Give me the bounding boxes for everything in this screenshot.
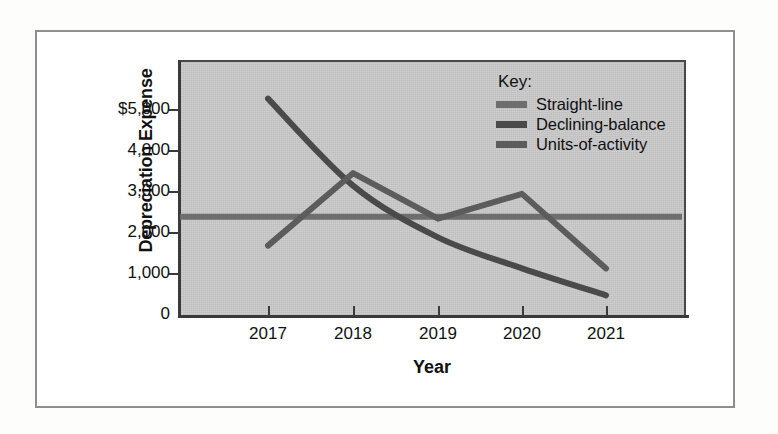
page-background: Depreciation Expense Year $5,000 4,000 3…	[0, 0, 778, 434]
x-tick-label-2020: 2020	[477, 324, 567, 344]
y-tick-label-1000: 1,000	[60, 263, 170, 283]
x-tick-label-2021: 2021	[561, 324, 651, 344]
legend: Key: Straight-line Declining-balance Uni…	[496, 72, 665, 155]
y-tick-label-0: 0	[60, 304, 170, 324]
x-tick-label-2018: 2018	[308, 324, 398, 344]
y-tick-label-3000: 3,000	[60, 181, 170, 201]
legend-label-units-of-activity: Units-of-activity	[536, 135, 647, 154]
legend-title: Key:	[496, 72, 665, 92]
y-tick-label-4000: 4,000	[60, 140, 170, 160]
legend-swatch-units-of-activity	[496, 141, 527, 148]
plot-wrapper: $5,000 4,000 3,000 2,000 1,000 0 2017 20…	[178, 60, 686, 316]
legend-label-declining-balance: Declining-balance	[536, 115, 665, 134]
y-tick-label-5000: $5,000	[60, 99, 170, 119]
legend-item-units-of-activity: Units-of-activity	[496, 135, 665, 154]
legend-swatch-declining-balance	[496, 121, 527, 128]
series-line-units-of-activity	[268, 173, 606, 268]
x-tick-label-2017: 2017	[223, 324, 313, 344]
x-tick-label-2019: 2019	[393, 324, 483, 344]
y-tick-label-2000: 2,000	[60, 222, 170, 242]
x-axis-title: Year	[178, 357, 686, 378]
legend-item-declining-balance: Declining-balance	[496, 115, 665, 134]
figure-frame: Depreciation Expense Year $5,000 4,000 3…	[35, 30, 735, 408]
legend-swatch-straight-line	[496, 101, 527, 108]
legend-label-straight-line: Straight-line	[536, 95, 623, 114]
legend-item-straight-line: Straight-line	[496, 95, 665, 114]
